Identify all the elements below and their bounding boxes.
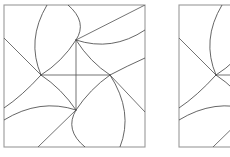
figure-root	[0, 0, 230, 157]
panel-frame	[4, 5, 145, 147]
right-panel	[179, 5, 230, 147]
left-panel	[4, 5, 145, 147]
panel-frame	[179, 5, 230, 147]
geometric-curve-diagram	[0, 0, 230, 157]
